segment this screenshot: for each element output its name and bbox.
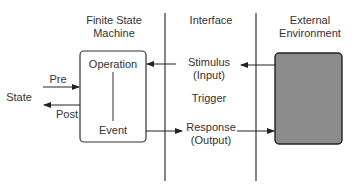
response-line1: Response <box>178 121 244 134</box>
external-heading-line2: Environment <box>268 27 352 40</box>
operation-label: Operation <box>80 58 146 71</box>
stimulus-line2: (Input) <box>176 69 242 82</box>
column-heading-fsm: Finite State Machine <box>72 14 156 40</box>
external-heading-line1: External <box>268 14 352 27</box>
response-label: Response (Output) <box>178 121 244 147</box>
fsm-heading-line1: Finite State <box>72 14 156 27</box>
fsm-heading-line2: Machine <box>72 27 156 40</box>
column-heading-external: External Environment <box>268 14 352 40</box>
event-label: Event <box>80 124 146 137</box>
stimulus-label: Stimulus (Input) <box>176 56 242 82</box>
pre-label: Pre <box>46 73 70 86</box>
response-line2: (Output) <box>178 134 244 147</box>
stimulus-line1: Stimulus <box>176 56 242 69</box>
column-heading-interface: Interface <box>175 14 247 27</box>
external-environment-box <box>275 53 342 144</box>
trigger-label: Trigger <box>176 92 242 105</box>
post-label: Post <box>54 108 80 121</box>
state-label: State <box>0 91 38 104</box>
